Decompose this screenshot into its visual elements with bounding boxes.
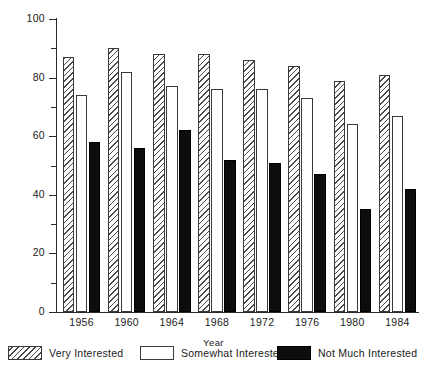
bar (347, 124, 359, 312)
bar (63, 57, 75, 312)
bar (379, 75, 391, 312)
bar (224, 160, 236, 312)
y-tick-major (49, 195, 57, 196)
bar (269, 163, 281, 312)
bar (405, 189, 417, 312)
bar (211, 89, 223, 312)
y-tick-label: 80 (5, 72, 45, 83)
white-swatch-icon (140, 346, 174, 360)
chart-legend: Very Interested Somewhat Interested Not … (0, 346, 427, 368)
bar (360, 209, 372, 312)
hatched-swatch-icon (8, 346, 42, 360)
x-tick-label: 1984 (367, 316, 427, 328)
bar (153, 54, 165, 312)
x-axis-line (56, 312, 419, 313)
bar (198, 54, 210, 312)
bar (121, 72, 133, 312)
bar (256, 89, 268, 312)
bar (179, 130, 191, 312)
legend-item-very-interested: Very Interested (8, 346, 123, 360)
bar (76, 95, 88, 312)
legend-label: Not Much Interested (318, 347, 417, 359)
y-tick-label: 0 (5, 306, 45, 317)
bar (243, 60, 255, 312)
plot-area (57, 19, 418, 312)
bar (134, 148, 146, 312)
y-tick-label: 40 (5, 189, 45, 200)
y-tick-label: 60 (5, 130, 45, 141)
bar (392, 116, 404, 312)
y-tick-label: 20 (5, 247, 45, 258)
bar (166, 86, 178, 312)
bar (334, 81, 346, 312)
legend-item-somewhat-interested: Somewhat Interested (140, 346, 285, 360)
y-tick-major (49, 136, 57, 137)
legend-item-not-much-interested: Not Much Interested (277, 346, 417, 360)
legend-label: Very Interested (49, 347, 123, 359)
y-tick-major (49, 78, 57, 79)
bar (301, 98, 313, 312)
bar (108, 48, 120, 312)
y-tick-major (49, 19, 57, 20)
bar (89, 142, 101, 312)
bar (288, 66, 300, 312)
black-swatch-icon (277, 346, 311, 360)
legend-label: Somewhat Interested (181, 347, 285, 359)
y-tick-major (49, 312, 57, 313)
y-tick-label: 100 (5, 13, 45, 24)
bar (314, 174, 326, 312)
y-tick-major (49, 253, 57, 254)
bar-chart: % Voting Year 020406080100 1956196019641… (0, 0, 427, 372)
